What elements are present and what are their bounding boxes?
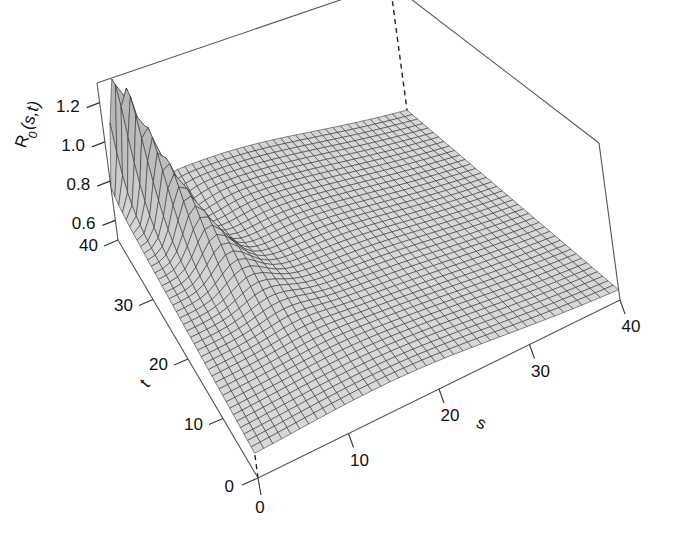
tick-label-t-0: 40 <box>79 236 98 255</box>
axis-title-t-group: t <box>136 375 154 391</box>
tick-label-s-3: 30 <box>531 362 550 381</box>
axis-title-z: R0(s,t) <box>11 98 50 152</box>
tick-t-1 <box>139 300 153 306</box>
surface-plot-figure: 1.21.00.80.6403020100010203040 R0(s,t)ts <box>0 0 686 547</box>
tick-label-z-3: 0.6 <box>72 214 96 233</box>
tick-t-0 <box>242 478 258 485</box>
tick-label-s-2: 20 <box>441 406 460 425</box>
tick-z-1 <box>92 142 105 147</box>
tick-t-3 <box>209 419 223 425</box>
tick-label-z-1: 1.0 <box>61 136 85 155</box>
tick-label-t-3: 10 <box>184 415 203 434</box>
tick-label-t-0: 0 <box>225 477 234 496</box>
tick-label-t-1: 30 <box>114 296 133 315</box>
tick-label-z-2: 0.8 <box>66 175 90 194</box>
tick-z-2 <box>97 181 110 186</box>
tick-label-s-0: 0 <box>255 498 264 517</box>
tick-t-0 <box>104 240 118 246</box>
axis-title-s: s <box>474 413 490 434</box>
surface-plot-canvas: 1.21.00.80.6403020100010203040 R0(s,t)ts <box>0 0 686 547</box>
tick-z-3 <box>102 220 115 225</box>
axis-title-z-group: R0(s,t) <box>11 98 50 152</box>
tick-s-4 <box>620 300 625 314</box>
tick-t-2 <box>174 359 188 365</box>
tick-label-s-1: 10 <box>350 451 369 470</box>
axis-title-s-group: s <box>474 413 490 434</box>
tick-label-t-2: 20 <box>149 355 168 374</box>
tick-s-1 <box>349 434 354 448</box>
axis-title-t: t <box>136 375 154 391</box>
tick-z-0 <box>87 103 100 108</box>
tick-s-2 <box>439 389 444 403</box>
tick-s-0 <box>258 478 261 495</box>
surface-mesh <box>110 79 619 453</box>
tick-label-s-4: 40 <box>622 317 641 336</box>
box-top-back-left <box>97 0 390 83</box>
tick-s-3 <box>530 345 535 359</box>
tick-label-z-0: 1.2 <box>56 97 80 116</box>
box-top-back-right <box>390 0 599 143</box>
axis-title-z-rest: (s,t) <box>17 98 44 132</box>
